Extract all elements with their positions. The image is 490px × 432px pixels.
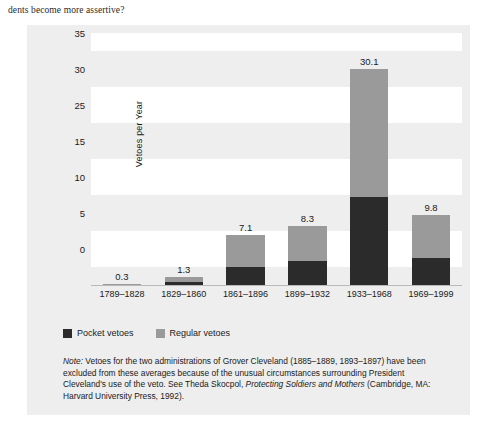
note-label: Note: <box>63 356 83 366</box>
x-axis-baseline <box>91 285 462 286</box>
note-book-title: Protecting Soldiers and Mothers <box>246 379 365 389</box>
legend-label: Regular vetoes <box>170 328 231 338</box>
bar-value-label: 0.3 <box>115 271 128 282</box>
legend-item-pocket-vetoes: Pocket vetoes <box>63 328 134 338</box>
bar-value-label: 7.1 <box>239 222 252 233</box>
legend-swatch-icon <box>156 329 165 338</box>
bar-group-1969-1999: 9.8 <box>400 33 462 286</box>
figure-panel: Vetoes per Year 35 30 25 15 10 5 0 0.3 1… <box>27 25 470 415</box>
bar-value-label: 1.3 <box>177 264 190 275</box>
chart-legend: Pocket vetoes Regular vetoes <box>63 328 244 338</box>
bar-series-container: 0.3 1.3 7.1 <box>91 33 462 286</box>
bar-group-1829-1860: 1.3 <box>153 33 215 286</box>
x-tick-label: 1899–1932 <box>276 289 338 299</box>
bar-segment-pocket <box>226 267 264 287</box>
page-continuation-text: dents become more assertive? <box>0 0 490 15</box>
bar-segment-regular <box>288 226 326 261</box>
y-tick-35: 35 <box>74 28 85 39</box>
y-tick-30: 30 <box>74 64 85 75</box>
y-tick-5: 5 <box>80 208 85 219</box>
bar-segment-regular <box>226 235 264 267</box>
figure-note: Note: Vetoes for the two administrations… <box>63 356 443 402</box>
x-tick-label: 1861–1896 <box>215 289 277 299</box>
x-axis-labels: 1789–1828 1829–1860 1861–1896 1899–1932 … <box>91 289 462 299</box>
bar-segment-pocket <box>288 261 326 286</box>
x-tick-label: 1829–1860 <box>153 289 215 299</box>
bar-segment-pocket <box>412 258 450 286</box>
note-line-1: Vetoes for the two administrations of Gr… <box>83 356 405 366</box>
x-tick-label: 1789–1828 <box>91 289 153 299</box>
legend-swatch-icon <box>63 329 72 338</box>
bar-group-1789-1828: 0.3 <box>91 33 153 286</box>
note-line-4: Harvard University Press, 1992). <box>63 391 184 401</box>
x-tick-label: 1933–1968 <box>338 289 400 299</box>
x-tick-label: 1969–1999 <box>400 289 462 299</box>
y-tick-15: 15 <box>74 136 85 147</box>
bar-value-label: 9.8 <box>424 202 437 213</box>
bar-value-label: 8.3 <box>301 213 314 224</box>
legend-item-regular-vetoes: Regular vetoes <box>156 328 231 338</box>
note-line-3a: Cleveland's use of the veto. See Theda S… <box>63 379 246 389</box>
bar-group-1933-1968: 30.1 <box>338 33 400 286</box>
bar-segment-pocket <box>350 197 388 286</box>
plot-area: Vetoes per Year 35 30 25 15 10 5 0 0.3 1… <box>91 33 462 286</box>
y-tick-0: 0 <box>80 244 85 255</box>
y-tick-10: 10 <box>74 172 85 183</box>
legend-label: Pocket vetoes <box>77 328 134 338</box>
note-line-3b: (Cambridge, MA: <box>365 379 431 389</box>
bar-group-1899-1932: 8.3 <box>276 33 338 286</box>
bar-value-label: 30.1 <box>360 56 379 67</box>
bar-segment-regular <box>412 215 450 258</box>
bar-group-1861-1896: 7.1 <box>215 33 277 286</box>
y-tick-25: 25 <box>74 100 85 111</box>
bar-segment-regular <box>350 69 388 198</box>
